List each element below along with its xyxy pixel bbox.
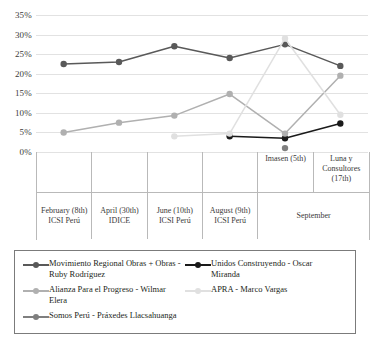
y-tick-0: 0%	[20, 148, 32, 157]
x-group-label-1: April (30th) IDICE	[92, 193, 147, 239]
data-point	[226, 130, 232, 136]
series-line	[64, 44, 341, 66]
legend-item-label: Movimiento Regional Obras + Obras - Ruby…	[49, 258, 181, 279]
data-point	[226, 91, 232, 97]
x-axis-sub-row: Imasen (5th)Luna y Consultores (17th)	[37, 152, 369, 193]
legend-item-label: Unidos Construyendo - Oscar Miranda	[211, 258, 343, 279]
x-sub-label-1	[92, 152, 147, 192]
y-tick-10: 10%	[15, 108, 32, 117]
y-tick-5: 5%	[20, 128, 32, 137]
data-point	[60, 61, 66, 67]
y-tick-15: 15%	[15, 89, 32, 98]
x-sub-label-5: Luna y Consultores (17th)	[314, 152, 369, 192]
data-point	[171, 43, 177, 49]
data-point	[116, 59, 122, 65]
legend-marker-icon	[185, 259, 211, 270]
x-sub-label-0	[37, 152, 92, 192]
y-tick-35: 35%	[15, 11, 32, 20]
data-point	[282, 145, 288, 151]
data-point	[282, 35, 288, 41]
series-somos	[282, 145, 288, 151]
legend-marker-icon	[185, 285, 211, 296]
data-point	[282, 130, 288, 136]
legend-marker-icon	[23, 285, 49, 296]
data-point	[171, 112, 177, 118]
plot-area: 0%5%10%15%20%25%30%35%	[0, 0, 370, 160]
series-lines	[36, 0, 368, 160]
polling-line-chart: 0%5%10%15%20%25%30%35% Imasen (5th)Luna …	[0, 0, 370, 346]
x-sub-label-4: Imasen (5th)	[258, 152, 313, 192]
y-tick-20: 20%	[15, 69, 32, 78]
x-sub-label-2	[148, 152, 203, 192]
data-point	[337, 120, 343, 126]
legend-items: Movimiento Regional Obras + Obras - Ruby…	[23, 258, 347, 327]
data-point	[337, 112, 343, 118]
legend-item[interactable]: Alianza Para el Progreso - Wilmar Elera	[23, 284, 185, 305]
data-point	[60, 129, 66, 135]
legend-item-label: Somos Perú - Práxedes Llacsahuanga	[49, 310, 176, 321]
legend-item[interactable]: APRA - Marco Vargas	[185, 284, 347, 305]
y-axis-tick-labels: 0%5%10%15%20%25%30%35%	[0, 0, 32, 160]
legend-item-label: APRA - Marco Vargas	[211, 284, 287, 295]
data-point	[171, 133, 177, 139]
x-group-label-4: September	[258, 193, 369, 239]
legend-item-label: Alianza Para el Progreso - Wilmar Elera	[49, 284, 181, 305]
data-point	[337, 63, 343, 69]
series-line	[174, 38, 340, 136]
y-tick-30: 30%	[15, 30, 32, 39]
x-group-label-0: February (8th) ICSI Perú	[37, 193, 92, 239]
legend-marker-icon	[23, 259, 49, 270]
data-point	[116, 119, 122, 125]
x-sub-label-3	[203, 152, 258, 192]
series-line	[64, 76, 341, 134]
legend-item[interactable]: Somos Perú - Práxedes Llacsahuanga	[23, 310, 347, 322]
legend-item[interactable]: Movimiento Regional Obras + Obras - Ruby…	[23, 258, 185, 279]
series-movimiento	[60, 41, 343, 69]
y-tick-25: 25%	[15, 50, 32, 59]
x-group-label-3: August (9th) ICSI Perú	[203, 193, 258, 239]
series-alianza	[60, 72, 343, 136]
data-point	[337, 72, 343, 78]
legend: Movimiento Regional Obras + Obras - Ruby…	[14, 250, 356, 334]
legend-marker-icon	[23, 311, 49, 322]
x-group-label-2: June (10th) ICSI Perú	[148, 193, 203, 239]
data-point	[226, 55, 232, 61]
legend-item[interactable]: Unidos Construyendo - Oscar Miranda	[185, 258, 347, 279]
x-axis-main-row: February (8th) ICSI PerúApril (30th) IDI…	[37, 193, 369, 239]
x-axis: Imasen (5th)Luna y Consultores (17th) Fe…	[36, 152, 370, 240]
